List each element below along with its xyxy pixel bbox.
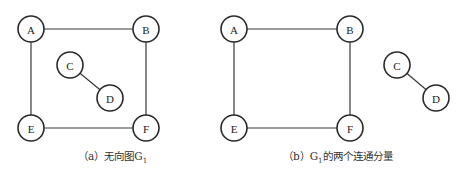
node-a-E: E xyxy=(18,115,44,141)
caption-a: （a）无向图G1 xyxy=(78,148,147,165)
graph-a-undirected-g1: ABCDEF xyxy=(18,16,159,141)
node-b-A: A xyxy=(221,16,247,42)
node-label: A xyxy=(230,24,238,36)
node-label: B xyxy=(142,24,149,36)
graph-b-connected-components: ABEFCD xyxy=(221,16,449,141)
node-b-E: E xyxy=(221,115,247,141)
node-a-D: D xyxy=(97,85,123,111)
node-a-B: B xyxy=(133,16,159,42)
node-label: C xyxy=(66,60,73,72)
node-a-F: F xyxy=(133,115,159,141)
caption-b: （b）G1的两个连通分量 xyxy=(283,148,393,165)
node-label: F xyxy=(143,123,149,135)
node-label: D xyxy=(432,93,440,105)
caption-b-suffix: 的两个连通分量 xyxy=(323,150,393,162)
node-label: D xyxy=(106,93,114,105)
node-label: A xyxy=(27,24,35,36)
node-a-C: C xyxy=(57,52,83,78)
node-label: E xyxy=(28,123,35,135)
node-label: B xyxy=(346,24,353,36)
node-label: E xyxy=(231,123,238,135)
caption-b-text: （b）G xyxy=(283,150,318,162)
node-label: C xyxy=(393,60,400,72)
node-b-B: B xyxy=(337,16,363,42)
caption-a-text: （a）无向图G xyxy=(78,150,143,162)
node-b-C: C xyxy=(384,52,410,78)
node-label: F xyxy=(347,123,353,135)
node-b-D: D xyxy=(423,85,449,111)
node-a-A: A xyxy=(18,16,44,42)
node-b-F: F xyxy=(337,115,363,141)
caption-a-subscript: 1 xyxy=(143,157,147,165)
